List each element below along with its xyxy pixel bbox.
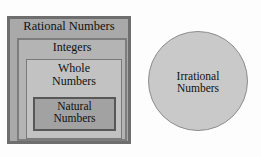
set-whole-numbers: Whole Numbers Natural Numbers <box>26 59 122 139</box>
set-whole-numbers-label: Whole Numbers <box>27 62 121 88</box>
set-irrational-numbers-label: Irrational Numbers <box>177 70 220 95</box>
set-rational-numbers: Rational Numbers Integers Whole Numbers … <box>7 16 131 144</box>
set-irrational-numbers: Irrational Numbers <box>148 31 248 131</box>
set-rational-numbers-label: Rational Numbers <box>10 20 128 34</box>
set-integers: Integers Whole Numbers Natural Numbers <box>17 38 127 141</box>
diagram-canvas: Rational Numbers Integers Whole Numbers … <box>0 0 261 157</box>
set-natural-numbers: Natural Numbers <box>33 97 116 131</box>
set-integers-label: Integers <box>19 41 125 54</box>
set-natural-numbers-label: Natural Numbers <box>35 100 114 125</box>
